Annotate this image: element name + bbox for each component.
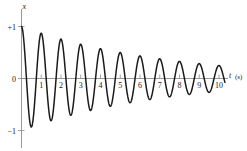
x-tick-label: 1	[39, 81, 43, 90]
y-tick-label-minus-one: −1	[7, 127, 16, 136]
x-tick-label: 2	[59, 81, 63, 90]
y-tick-label-plus-one: +1	[7, 23, 16, 32]
y-tick-label-zero: 0	[12, 75, 16, 84]
x-axis-label: t	[229, 71, 232, 80]
y-axis-label: x	[22, 2, 27, 11]
x-tick-label: 6	[138, 81, 142, 90]
x-tick-label: 7	[158, 81, 162, 90]
x-tick-label: 3	[79, 81, 83, 90]
x-tick-label: 9	[197, 81, 201, 90]
damped-oscillation-figure: x t (s) +1 0 −1 12345678910	[0, 0, 247, 151]
x-axis-unit: (s)	[235, 73, 243, 81]
x-tick-label: 10	[215, 81, 223, 90]
x-tick-label: 4	[99, 81, 103, 90]
x-tick-label: 5	[118, 81, 122, 90]
labels-overlay: x t (s) +1 0 −1 12345678910	[0, 0, 247, 151]
x-tick-label: 8	[178, 81, 182, 90]
x-tick-labels: 12345678910	[39, 81, 223, 90]
